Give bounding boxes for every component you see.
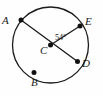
geometry-figure: A B C D E 54° (0, 0, 103, 96)
point-A-dot (19, 18, 24, 23)
point-C-dot (48, 43, 53, 48)
point-label-a: A (2, 15, 9, 26)
point-label-c: C (40, 45, 47, 56)
point-D-dot (75, 59, 80, 64)
point-E-dot (78, 24, 83, 29)
point-B-dot (32, 70, 37, 75)
angle-measure-label-ecd: 54° (55, 34, 66, 42)
point-label-d: D (82, 58, 90, 69)
segment-AD (21, 20, 78, 62)
point-label-b: B (31, 77, 38, 88)
point-label-e: E (85, 16, 92, 27)
